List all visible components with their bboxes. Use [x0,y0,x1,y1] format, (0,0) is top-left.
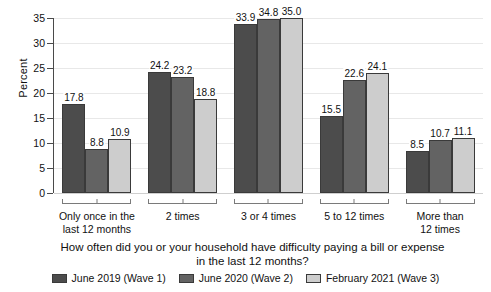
y-tick-mark [47,18,53,19]
legend-item[interactable]: February 2021 (Wave 3) [306,272,439,284]
bar-slot: 10.9 [108,18,131,193]
bar[interactable] [406,151,429,194]
bar-slot: 11.1 [452,18,475,193]
bar-value-label: 10.9 [109,127,130,138]
bar-value-label: 11.1 [453,126,474,137]
legend-label: June 2019 (Wave 1) [72,272,166,284]
bar-value-label: 15.5 [321,104,342,115]
gridline [54,193,483,194]
bar-slot: 34.8 [257,18,280,193]
plot-area: 05101520253035 17.88.810.924.223.218.833… [53,18,483,193]
bar-slot: 22.6 [343,18,366,193]
legend-swatch-icon [52,274,67,283]
bar-groups: 17.88.810.924.223.218.833.934.835.015.52… [54,18,483,193]
bar-value-label: 18.8 [195,87,216,98]
bar[interactable] [429,140,452,194]
bar-slot: 10.7 [429,18,452,193]
category-label: More than12 times [385,210,491,236]
y-tick-label: 35 [21,12,45,24]
bar-slot: 15.5 [320,18,343,193]
y-tick-label: 10 [21,137,45,149]
bar-slot: 8.8 [85,18,108,193]
bar[interactable] [108,139,131,194]
grouped-bar-chart: Percent 05101520253035 17.88.810.924.223… [0,0,491,292]
bar[interactable] [320,116,343,194]
y-tick-label: 0 [21,187,45,199]
bar-value-label: 10.7 [429,128,450,139]
bar[interactable] [62,104,85,193]
category-labels: Only once in thelast 12 months2 times3 o… [54,210,483,244]
bar-group: 24.223.218.8 [148,18,217,193]
y-tick-label: 5 [21,162,45,174]
bar[interactable] [343,80,366,193]
bar-value-label: 8.5 [409,139,425,150]
y-tick-mark [47,118,53,119]
bar-group: 33.934.835.0 [234,18,303,193]
y-tick-label: 20 [21,87,45,99]
y-tick-mark [47,143,53,144]
y-tick-label: 30 [21,37,45,49]
bar-value-label: 24.2 [149,60,170,71]
bar-group: 17.88.810.9 [62,18,131,193]
bar-value-label: 17.8 [63,92,84,103]
bar-value-label: 33.9 [235,12,256,23]
bar[interactable] [234,24,257,194]
bar[interactable] [171,77,194,193]
bar-slot: 18.8 [194,18,217,193]
bar[interactable] [452,138,475,194]
bar-value-label: 34.8 [258,7,279,18]
category-axis [54,199,483,207]
bar[interactable] [366,73,389,194]
bar-value-label: 22.6 [344,68,365,79]
bar-slot: 8.5 [406,18,429,193]
category-tick [440,199,441,204]
bar-slot: 33.9 [234,18,257,193]
bar-slot: 17.8 [62,18,85,193]
y-tick-mark [47,68,53,69]
category-tick [354,199,355,204]
y-tick-mark [47,168,53,169]
legend-swatch-icon [179,274,194,283]
bar-slot: 23.2 [171,18,194,193]
y-tick-mark [47,193,53,194]
category-tick [182,199,183,204]
legend-label: February 2021 (Wave 3) [326,272,439,284]
category-tick [96,199,97,204]
bar[interactable] [194,99,217,193]
bar[interactable] [280,18,303,193]
bar[interactable] [148,72,171,193]
bar[interactable] [85,149,108,193]
y-tick-label: 15 [21,112,45,124]
legend-label: June 2020 (Wave 2) [199,272,293,284]
legend-item[interactable]: June 2019 (Wave 1) [52,272,166,284]
legend-item[interactable]: June 2020 (Wave 2) [179,272,293,284]
y-tick-mark [47,43,53,44]
bar-group: 15.522.624.1 [320,18,389,193]
bar-slot: 35.0 [280,18,303,193]
bar-value-label: 24.1 [367,61,388,72]
bar-value-label: 35.0 [281,6,302,17]
bar[interactable] [257,19,280,193]
bar-value-label: 8.8 [89,137,105,148]
x-axis-title: How often did you or your household have… [55,240,450,268]
y-tick-label: 25 [21,62,45,74]
bar-slot: 24.1 [366,18,389,193]
bar-value-label: 23.2 [172,65,193,76]
category-tick [268,199,269,204]
chart-legend: June 2019 (Wave 1)June 2020 (Wave 2)Febr… [0,272,491,284]
legend-swatch-icon [306,274,321,283]
y-tick-mark [47,93,53,94]
bar-group: 8.510.711.1 [406,18,475,193]
bar-slot: 24.2 [148,18,171,193]
